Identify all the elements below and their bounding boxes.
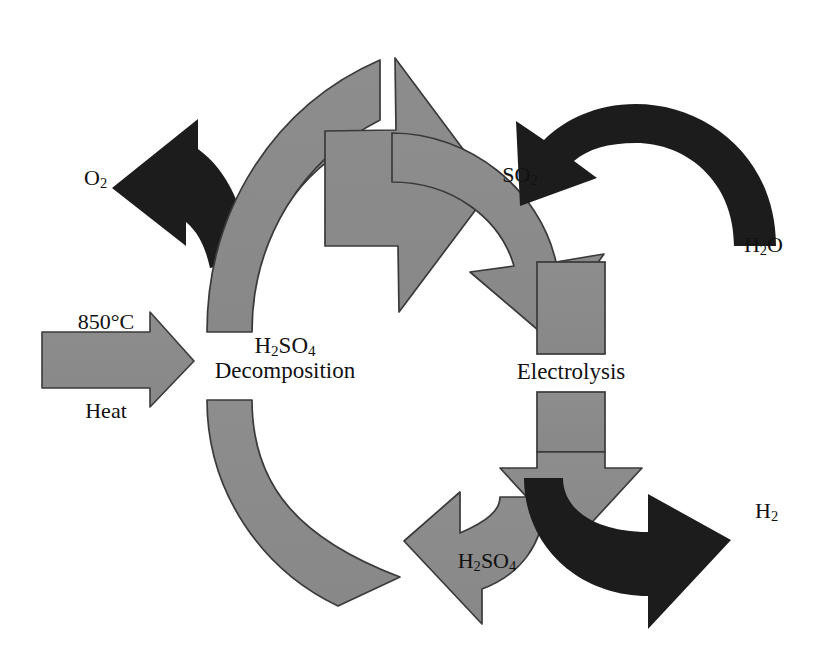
- thermochemical-cycle-diagram: O2 850°C Heat H2SO4 Decomposition SO2 H2…: [0, 0, 829, 655]
- label-h2-text: H: [755, 498, 771, 523]
- formula-h: H: [254, 333, 271, 358]
- label-h2so4-so: SO: [481, 548, 509, 573]
- h2-output-arrow: [524, 478, 731, 629]
- label-so2: SO2: [502, 163, 537, 188]
- label-o2: O2: [84, 166, 107, 191]
- label-h2o-o: O: [767, 232, 783, 257]
- label-h2so4-decomposition: H2SO4 Decomposition: [215, 334, 356, 384]
- label-decomposition-word: Decomposition: [215, 359, 356, 384]
- h2o-input-arrow: [516, 104, 776, 246]
- electrolysis-shaft-lower: [537, 392, 605, 452]
- label-h2so4-sub2: 4: [509, 558, 516, 574]
- electrolysis-shaft-upper: [537, 262, 605, 354]
- label-h2so4-formula: H2SO4: [215, 334, 356, 359]
- label-electrolysis: Electrolysis: [517, 360, 626, 385]
- label-heat: Heat: [85, 399, 127, 423]
- formula-so: SO: [279, 333, 308, 358]
- label-h2-subscript: 2: [771, 508, 778, 524]
- label-h2o-h: H: [744, 232, 760, 257]
- label-so2-subscript: 2: [530, 172, 537, 188]
- label-h2o: H2O: [744, 233, 783, 258]
- label-so2-text: SO: [502, 162, 530, 187]
- formula-h-sub: 2: [271, 342, 279, 359]
- formula-so-sub: 4: [308, 342, 316, 359]
- label-o2-subscript: 2: [100, 175, 107, 191]
- h2so4-return-arc-band: [207, 400, 400, 606]
- label-h2so4-return: H2SO4: [458, 549, 517, 574]
- label-o2-text: O: [84, 165, 100, 190]
- label-h2: H2: [755, 499, 778, 524]
- label-temperature: 850°C: [78, 310, 134, 334]
- label-h2so4-h: H: [458, 548, 474, 573]
